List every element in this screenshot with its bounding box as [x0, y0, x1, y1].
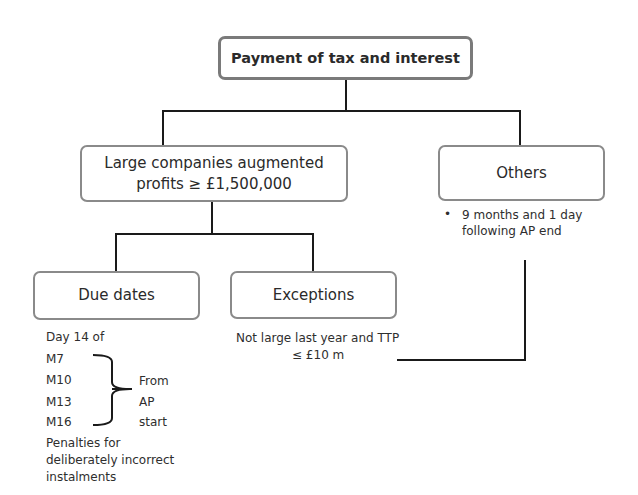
penalties-line2: deliberately incorrect	[46, 452, 174, 468]
month-m13: M13	[46, 394, 72, 410]
month-m16: M16	[46, 414, 72, 430]
brace-note-start: start	[139, 414, 167, 430]
due-dates-node: Due dates	[33, 271, 200, 320]
exceptions-label: Exceptions	[273, 285, 355, 306]
root-label: Payment of tax and interest	[231, 48, 460, 69]
others-bullet: •	[444, 207, 451, 221]
others-note-line1: 9 months and 1 day	[462, 207, 582, 223]
brace-note-ap: AP	[139, 394, 154, 410]
exceptions-note-line2: ≤ £10 m	[292, 347, 344, 363]
month-m10: M10	[46, 372, 72, 388]
large-companies-node: Large companies augmented profits ≥ £1,5…	[80, 145, 348, 202]
others-note-line2: following AP end	[462, 223, 562, 239]
large-label-line1: Large companies augmented	[104, 153, 323, 174]
brace-note-from: From	[139, 373, 169, 389]
exceptions-node: Exceptions	[230, 271, 397, 319]
due-dates-intro: Day 14 of	[46, 329, 104, 345]
penalties-line3: instalments	[46, 469, 116, 485]
large-label-line2: profits ≥ £1,500,000	[136, 174, 292, 195]
others-node: Others	[438, 145, 605, 201]
penalties-line1: Penalties for	[46, 435, 120, 451]
root-node: Payment of tax and interest	[218, 36, 473, 80]
exceptions-note-line1: Not large last year and TTP	[236, 330, 399, 346]
others-label: Others	[496, 163, 546, 184]
due-dates-label: Due dates	[78, 285, 155, 306]
month-m7: M7	[46, 351, 64, 367]
